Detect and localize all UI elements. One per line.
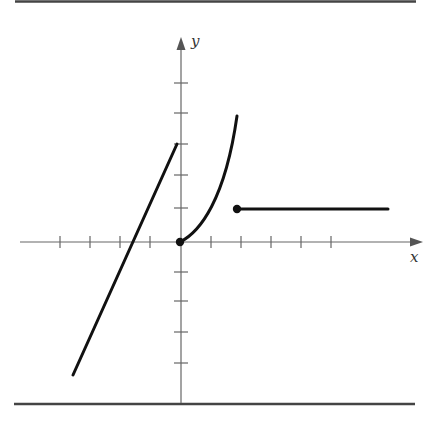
x-axis-arrow-icon [410, 238, 423, 247]
x-axis-label: x [410, 248, 419, 266]
parabolic-piece [180, 116, 237, 242]
x-axis: x [20, 236, 423, 266]
linear-piece [73, 144, 177, 375]
y-axis-label: y [190, 32, 200, 50]
constant-start-closed-dot [233, 205, 241, 213]
y-axis-arrow-icon [177, 37, 186, 50]
y-axis: y [174, 32, 200, 403]
origin-closed-dot [176, 238, 184, 246]
piecewise-function-graph: x y [0, 0, 432, 423]
